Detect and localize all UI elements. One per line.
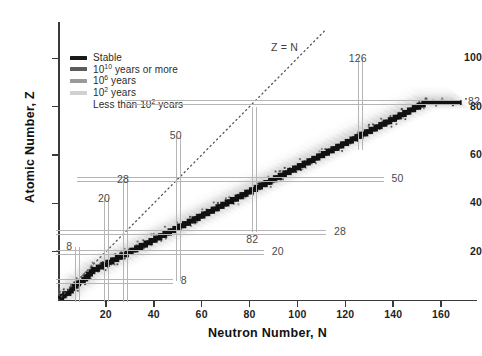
x-tick-100 [297,301,299,307]
magic-band-N-8 [79,247,80,303]
magic-band-Z-20 [56,250,264,251]
legend-swatch-3 [70,91,87,95]
x-tick-label-160: 160 [421,308,461,320]
magic-label-Z-8: 8 [181,274,187,286]
x-tick-140 [392,301,394,307]
x-tick-120 [345,301,347,307]
magic-band-N-82 [252,107,253,233]
magic-band-N-50 [176,136,177,281]
legend-item-0[interactable]: Stable [70,52,183,64]
magic-label-N-8: 8 [66,240,72,252]
legend-label-3: 102 years [93,87,136,98]
magic-band-Z-8 [56,279,173,280]
legend-label-2: 106 years [93,75,136,86]
magic-band-N-28 [127,179,128,302]
magic-band-N-82 [256,107,257,233]
legend-swatch-0 [70,56,87,60]
magic-band-Z-20 [56,254,264,255]
x-tick-40 [153,301,155,307]
x-tick-80 [249,301,251,307]
magic-label-N-20: 20 [98,192,110,204]
magic-label-Z-82: 82 [468,95,480,107]
legend: Stable1010 years or more106 years102 yea… [70,52,183,110]
magic-label-N-126: 126 [349,52,367,64]
magic-band-N-50 [180,136,181,281]
magic-label-N-82: 82 [246,233,258,245]
x-tick-label-120: 120 [325,308,365,320]
magic-label-N-50: 50 [170,129,182,141]
magic-band-Z-28 [56,230,327,231]
magic-label-Z-20: 20 [272,245,284,257]
magic-band-Z-82 [125,104,460,105]
magic-band-Z-8 [56,283,173,284]
legend-swatch-4 [70,102,87,106]
magic-band-Z-82 [125,100,460,101]
y-axis-title: Atomic Number, Z [23,27,37,267]
x-tick-label-80: 80 [230,308,270,320]
x-axis-title: Neutron Number, N [58,326,477,340]
x-tick-60 [201,301,203,307]
legend-item-1[interactable]: 1010 years or more [70,64,183,76]
legend-item-2[interactable]: 106 years [70,75,183,87]
x-tick-160 [440,301,442,307]
legend-item-3[interactable]: 102 years [70,87,183,99]
z-equals-n-label: Z = N [271,41,298,53]
magic-band-N-8 [75,247,76,303]
x-tick-label-100: 100 [277,308,317,320]
legend-swatch-2 [70,79,87,83]
legend-swatch-1 [70,67,87,71]
x-tick-label-20: 20 [86,308,126,320]
magic-band-Z-28 [56,234,327,235]
x-tick-label-40: 40 [134,308,174,320]
x-tick-20 [105,301,107,307]
magic-label-N-28: 28 [117,173,129,185]
magic-label-Z-50: 50 [391,172,403,184]
x-tick-label-140: 140 [373,308,413,320]
magic-label-Z-28: 28 [334,225,346,237]
nuclide-chart: 20406080100 20406080100120140160 Atomic … [0,0,482,356]
magic-band-N-28 [123,179,124,302]
x-tick-label-60: 60 [182,308,222,320]
